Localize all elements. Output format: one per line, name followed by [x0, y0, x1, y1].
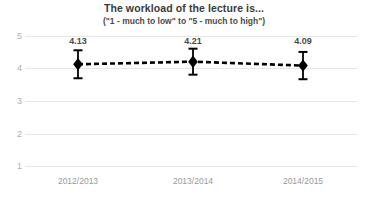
- y-axis-tick-2: 2: [0, 130, 22, 139]
- gridline-1: [25, 166, 357, 167]
- gridline-4: [25, 68, 357, 69]
- gridline-3: [25, 101, 357, 102]
- y-axis-tick-5: 5: [0, 32, 22, 41]
- y-axis-tick-4: 4: [0, 64, 22, 73]
- gridline-2: [25, 134, 357, 135]
- point-label-1: 4.21: [184, 37, 202, 46]
- x-axis-tick-2012-2013: 2012/2013: [43, 177, 113, 186]
- y-axis-tick-1: 1: [0, 162, 22, 171]
- x-axis-tick-2014-2015: 2014/2015: [268, 177, 338, 186]
- plot-area: [25, 36, 357, 166]
- y-axis-tick-3: 3: [0, 97, 22, 106]
- chart-subtitle: ("1 - much to low" to "5 - much to high"…: [0, 16, 368, 26]
- point-label-0: 4.13: [69, 37, 87, 46]
- point-label-2: 4.09: [294, 37, 312, 46]
- x-axis-tick-2013-2014: 2013/2014: [158, 177, 228, 186]
- chart-container: The workload of the lecture is... ("1 - …: [0, 0, 368, 201]
- chart-title: The workload of the lecture is...: [0, 2, 368, 14]
